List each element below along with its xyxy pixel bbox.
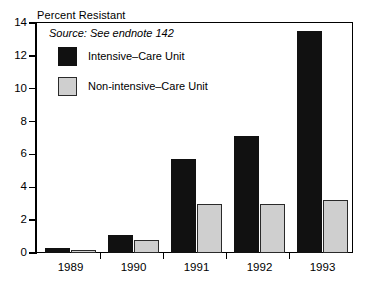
bar-group	[234, 23, 285, 253]
y-axis-tick-label: 12	[5, 50, 27, 62]
y-axis-tick-label: 14	[5, 17, 27, 29]
source-note: Source: See endnote 142	[49, 27, 174, 39]
x-axis-label-1989: 1989	[41, 261, 101, 273]
y-axis-tick-label: 8	[5, 116, 27, 128]
x-axis-label-1993: 1993	[293, 261, 353, 273]
legend-swatch-icon	[58, 77, 77, 96]
x-axis-label-1992: 1992	[230, 261, 290, 273]
y-axis-tick-label: 4	[5, 181, 27, 193]
legend-item: Non-intensive–Care Unit	[58, 74, 208, 98]
legend-item: Intensive–Care Unit	[58, 44, 208, 68]
y-axis-title: Percent Resistant	[37, 9, 126, 21]
bar	[260, 204, 285, 253]
y-axis-labels: 02468101214	[0, 0, 27, 292]
bar	[234, 136, 259, 253]
bar	[108, 235, 133, 253]
bar	[45, 248, 70, 253]
legend-label: Non-intensive–Care Unit	[88, 80, 208, 92]
legend-swatch-icon	[58, 47, 77, 66]
x-axis-tick	[289, 253, 290, 259]
y-axis-tick-label: 10	[5, 83, 27, 95]
bar	[297, 31, 322, 253]
bar	[323, 200, 348, 253]
x-axis-tick	[163, 253, 164, 259]
x-axis-label-1990: 1990	[104, 261, 164, 273]
y-axis-tick-label: 6	[5, 148, 27, 160]
bar	[171, 159, 196, 253]
y-axis-tick-label: 0	[5, 247, 27, 259]
y-axis-tick-label: 2	[5, 214, 27, 226]
legend-label: Intensive–Care Unit	[88, 50, 185, 62]
x-axis-tick	[226, 253, 227, 259]
bar	[71, 250, 96, 253]
x-axis-label-1991: 1991	[167, 261, 227, 273]
x-axis-tick	[100, 253, 101, 259]
bar	[134, 240, 159, 253]
bar	[197, 204, 222, 253]
chart-figure: Percent Resistant 02468101214 1989199019…	[0, 0, 365, 292]
bar-group	[297, 23, 348, 253]
chart-legend: Intensive–Care UnitNon-intensive–Care Un…	[58, 44, 208, 104]
